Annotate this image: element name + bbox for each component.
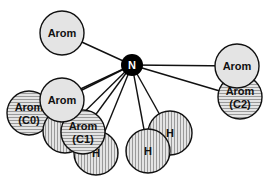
node-h-center: H — [126, 129, 170, 173]
nitrogen-node: N — [121, 54, 143, 76]
node-arom-top: Arom — [40, 11, 84, 55]
molecular-contact-diagram: Arom(C2)AromAromHHHArom(C0)Arom(C1)Arom … — [0, 0, 274, 177]
node-label: H — [144, 145, 152, 157]
node-label: Arom — [223, 60, 252, 72]
node-label: Arom — [15, 101, 44, 113]
node-label: (C2) — [229, 98, 251, 110]
node-label: Arom — [48, 94, 77, 106]
node-label: H — [166, 127, 174, 139]
node-arom-center: Arom — [40, 78, 84, 122]
nitrogen-label: N — [128, 59, 136, 71]
atom-nodes: Arom(C2)AromAromHHHArom(C0)Arom(C1)Arom — [7, 11, 262, 175]
node-label: Arom — [69, 120, 98, 132]
node-label: (C0) — [18, 114, 40, 126]
node-arom-right: Arom — [215, 44, 259, 88]
node-label: Arom — [48, 27, 77, 39]
node-label: (C1) — [72, 133, 94, 145]
